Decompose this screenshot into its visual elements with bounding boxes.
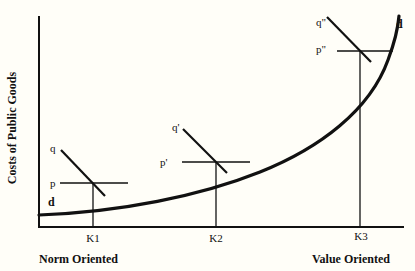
curve-label-left: d — [48, 195, 55, 209]
q-double-prime-line — [327, 17, 371, 62]
y-axis-label: Costs of Public Goods — [5, 72, 19, 185]
p-prime-label: p' — [160, 156, 168, 168]
k1-construction — [60, 150, 128, 227]
k1-label: K1 — [86, 232, 99, 244]
q-prime-label: q' — [172, 121, 180, 133]
k2-label: K2 — [209, 232, 222, 244]
value-oriented-label: Value Oriented — [312, 252, 390, 266]
q-double-prime-label: q" — [316, 16, 326, 28]
curve-label-right: d — [396, 17, 403, 31]
p-double-prime-label: p" — [316, 43, 326, 55]
q-prime-line — [183, 129, 227, 173]
k3-construction — [327, 17, 393, 227]
norm-oriented-label: Norm Oriented — [39, 252, 118, 266]
k3-label: K3 — [354, 230, 368, 242]
p-label: p — [50, 177, 56, 189]
q-label: q — [50, 142, 56, 154]
q-line — [61, 150, 105, 196]
public-goods-cost-diagram: Costs of Public Goods d d q p K1 q' p' K… — [0, 0, 415, 271]
